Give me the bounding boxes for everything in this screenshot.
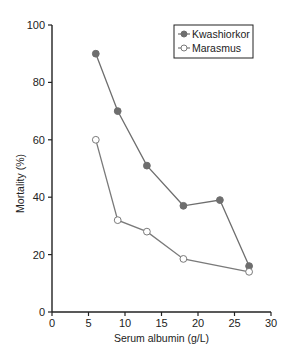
x-tick-label: 15 (155, 317, 167, 329)
data-point (180, 256, 187, 263)
legend: KwashiorkorMarasmus (174, 25, 253, 58)
data-point (180, 202, 187, 209)
series-layer (92, 50, 252, 275)
series-line (96, 54, 249, 266)
x-tick-label: 30 (265, 317, 277, 329)
series-line (96, 140, 249, 272)
x-tick-label: 20 (192, 317, 204, 329)
data-point (114, 217, 121, 224)
series-marasmus (92, 136, 252, 275)
data-point (92, 50, 99, 57)
x-tick-label: 5 (85, 317, 91, 329)
legend-label: Kwashiorkor (192, 28, 250, 40)
axes: 020406080100051015202530 (27, 19, 277, 329)
legend-open-circle-icon (181, 45, 187, 51)
data-point (144, 162, 151, 169)
y-tick-label: 40 (33, 191, 45, 203)
data-point (144, 228, 151, 235)
y-axis-label: Mortality (%) (14, 154, 26, 213)
x-tick-label: 0 (49, 317, 55, 329)
legend-label: Marasmus (192, 42, 241, 54)
series-kwashiorkor (92, 50, 252, 269)
legend-filled-circle-icon (181, 31, 187, 37)
x-axis-label: Serum albumin (g/L) (114, 332, 209, 344)
y-tick-label: 100 (27, 19, 45, 31)
chart: 020406080100051015202530 Serum albumin (… (0, 0, 294, 363)
y-tick-label: 0 (39, 306, 45, 318)
y-tick-label: 20 (33, 249, 45, 261)
y-tick-label: 60 (33, 134, 45, 146)
y-tick-label: 80 (33, 76, 45, 88)
data-point (114, 108, 121, 115)
x-tick-label: 25 (228, 317, 240, 329)
data-point (246, 268, 253, 275)
data-point (217, 197, 224, 204)
x-tick-label: 10 (119, 317, 131, 329)
data-point (92, 136, 99, 143)
